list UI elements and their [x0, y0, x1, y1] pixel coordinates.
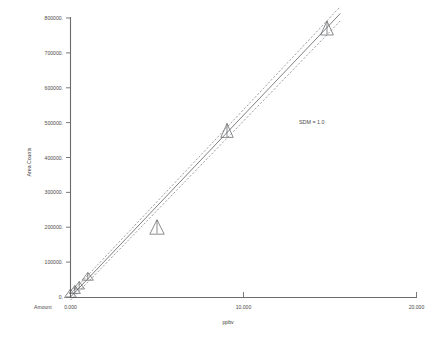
calibration-curve-chart: 800000. 700000. 600000. 500000. 400000. … [0, 0, 444, 339]
sdm-annotation: SDM = 1.0 [299, 119, 325, 125]
x-axis-ticks [71, 292, 417, 298]
y-tick-label-600000: 600000. [45, 85, 63, 91]
y-tick-label-500000: 500000. [45, 120, 63, 126]
y-tick-label-200000: 200000. [45, 224, 63, 230]
chart-page: 800000. 700000. 600000. 500000. 400000. … [0, 0, 444, 339]
x-tick-label-20: 20.000 [409, 304, 425, 310]
x-tick-label-10: 10.000 [236, 304, 252, 310]
y-axis-title: Area Counts [26, 147, 32, 176]
y-axis-tick-labels: 800000. 700000. 600000. 500000. 400000. … [45, 15, 63, 300]
y-tick-label-0: 0. [59, 294, 63, 300]
y-tick-label-800000: 800000. [45, 15, 63, 21]
x-axis-tick-labels: 0.000 10.000 20.000 [64, 304, 424, 310]
y-tick-label-100000: 100000. [45, 259, 63, 265]
lower-confidence-band [71, 21, 341, 300]
upper-confidence-band [71, 7, 341, 294]
y-tick-label-400000: 400000. [45, 155, 63, 161]
y-tick-label-300000: 300000. [45, 189, 63, 195]
regression-fit-line [71, 13, 341, 297]
data-point-marker [221, 124, 233, 138]
x-axis-title: ppbv [222, 319, 234, 325]
x-tick-label-0: 0.000 [64, 304, 77, 310]
amount-row-label: Amount [34, 304, 52, 310]
y-axis-ticks [66, 18, 71, 297]
data-point-marker [150, 220, 164, 234]
data-point-marker [74, 282, 85, 290]
data-point-marker [82, 273, 93, 281]
y-tick-label-700000: 700000. [45, 50, 63, 56]
data-point-markers [65, 21, 334, 298]
